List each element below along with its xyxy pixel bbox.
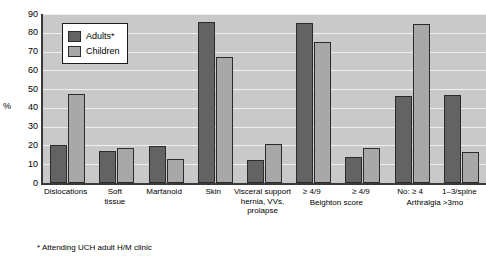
bar-adults xyxy=(296,23,313,183)
x-axis-supergroup-labels: Beighton scoreArthralgia >3mo xyxy=(41,187,484,232)
y-axis-tick-labels: 0102030405060708090 xyxy=(16,0,38,263)
bar-children xyxy=(314,42,331,183)
bar-group xyxy=(296,14,331,183)
bar-group xyxy=(395,14,430,183)
bar-adults xyxy=(395,96,412,183)
bar-chart: % 0102030405060708090 Adults*Children Di… xyxy=(0,0,486,263)
bar-adults xyxy=(198,22,215,183)
bar-adults xyxy=(247,160,264,183)
x-axis-supergroup-label: Beighton score xyxy=(287,198,385,208)
legend-swatch-icon xyxy=(68,31,81,42)
y-axis-tick-40: 40 xyxy=(18,103,38,112)
bar-group xyxy=(247,14,282,183)
y-axis-tick-60: 60 xyxy=(18,66,38,75)
chart-footnote: * Attending UCH adult H/M clinic xyxy=(37,243,152,253)
bar-adults xyxy=(149,146,166,183)
legend-swatch-icon xyxy=(68,46,81,57)
legend: Adults*Children xyxy=(62,23,128,64)
x-axis-supergroup-label: Arthralgia >3mo xyxy=(386,198,484,208)
y-axis-tick-30: 30 xyxy=(18,122,38,131)
bar-children xyxy=(265,144,282,183)
plot-area: Adults*Children xyxy=(41,14,486,185)
bar-adults xyxy=(444,95,461,183)
y-axis-tick-20: 20 xyxy=(18,141,38,150)
bar-children xyxy=(462,152,479,183)
y-axis-tick-10: 10 xyxy=(18,160,38,169)
bar-group xyxy=(198,14,233,183)
bar-children xyxy=(363,148,380,183)
bar-adults xyxy=(50,145,67,183)
y-axis-tick-80: 80 xyxy=(18,28,38,37)
bar-children xyxy=(413,24,430,183)
bar-children xyxy=(167,159,184,183)
bar-group xyxy=(345,14,380,183)
y-axis-tick-50: 50 xyxy=(18,85,38,94)
bar-children xyxy=(68,94,85,183)
bar-adults xyxy=(99,151,116,183)
legend-label: Adults* xyxy=(86,31,115,42)
y-axis-tick-70: 70 xyxy=(18,47,38,56)
bar-group xyxy=(149,14,184,183)
bar-children xyxy=(117,148,134,183)
bar-adults xyxy=(345,157,362,183)
legend-item: Adults* xyxy=(68,29,120,43)
legend-label: Children xyxy=(86,46,120,57)
bar-group xyxy=(444,14,479,183)
y-axis-title: % xyxy=(3,102,11,111)
bar-children xyxy=(216,57,233,183)
y-axis-tick-90: 90 xyxy=(18,10,38,19)
legend-item: Children xyxy=(68,44,120,58)
